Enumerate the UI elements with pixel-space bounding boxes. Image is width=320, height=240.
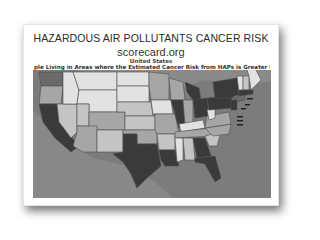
state-nm (97, 130, 123, 152)
state-mo (155, 114, 179, 134)
state-oh (193, 98, 209, 118)
state-al (183, 138, 195, 160)
map-title: HAZARDOUS AIR POLLUTANTS CANCER RISK (24, 32, 278, 44)
state-nh (243, 76, 249, 90)
us-choropleth-map (33, 70, 271, 198)
state-ar (157, 134, 175, 150)
map-graphic (33, 70, 271, 198)
state-mn (149, 72, 169, 100)
state-sd (117, 86, 149, 102)
state-or (39, 86, 63, 104)
state-ks (125, 116, 155, 130)
source-label: scorecard.org (24, 46, 278, 58)
map-card: HAZARDOUS AIR POLLUTANTS CANCER RISK sco… (23, 24, 279, 206)
state-mt (73, 72, 117, 90)
state-nd (117, 72, 149, 86)
state-ia (151, 100, 173, 114)
state-ut (77, 104, 89, 126)
state-wa (39, 72, 63, 86)
state-in (183, 100, 193, 124)
state-nj (231, 100, 237, 110)
